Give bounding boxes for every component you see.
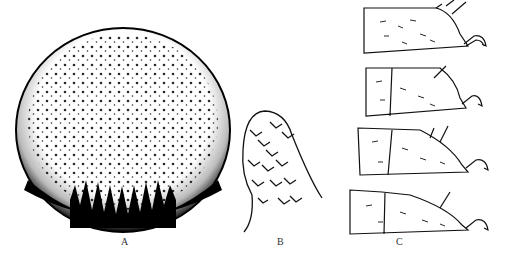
panel-b-appendage [243, 111, 322, 232]
panel-label-a: A [121, 236, 128, 247]
figure-canvas [0, 0, 511, 261]
panel-c-legs [350, 0, 488, 234]
panel-a-plate [16, 28, 230, 232]
panel-label-b: B [277, 236, 284, 247]
panel-label-c: C [396, 236, 403, 247]
